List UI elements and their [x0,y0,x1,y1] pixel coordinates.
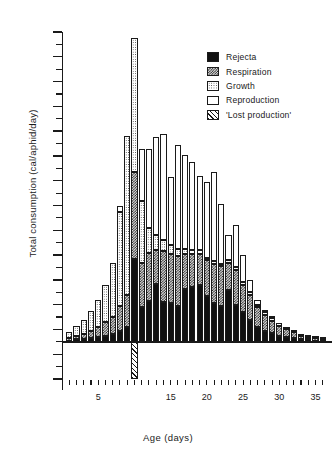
x-tick [148,380,149,385]
bar-segment-reproduction [189,162,195,250]
bar-segment-rejecta [240,312,246,342]
bar-segment-respiration [182,254,188,289]
bar-segment-reproduction [218,204,224,263]
bar-segment-respiration [269,321,275,333]
bar-segment-growth [110,263,116,318]
bar-segment-respiration [160,251,166,302]
x-tick [279,380,280,385]
figure: Total consumption (cal/aphid/day) Age (d… [0,0,336,462]
x-tick [119,380,120,385]
legend-item: Respiration [207,64,291,78]
bar-segment-respiration [81,334,87,339]
y-tick-major [53,378,62,379]
x-tick [163,380,164,385]
x-tick [235,380,236,385]
bar-stack [211,172,217,342]
bar-stack [204,182,210,342]
x-tick [83,380,84,385]
bar-stack [225,235,231,342]
legend-label: Respiration [226,67,272,77]
bar-segment-reproduction [197,176,203,250]
bar-segment-growth [131,38,137,172]
bar-stack [73,326,79,342]
bar-segment-respiration [73,336,79,340]
x-tick-label: 25 [230,392,256,402]
bar-stack [320,338,326,342]
bar-segment-rejecta [102,336,108,342]
bar-segment-respiration [240,285,246,312]
bar-segment-growth [139,201,145,263]
bar-stack [197,176,203,342]
x-tick [127,380,128,385]
bar-segment-respiration [298,336,304,340]
bar-segment-respiration [110,317,116,334]
bar-segment-growth [254,305,260,307]
y-tick-major [53,130,62,131]
legend-item: Rejecta [207,50,291,64]
bar-segment-respiration [95,327,101,337]
x-tick [272,380,273,385]
x-tick [185,380,186,385]
bar-segment-growth [73,326,79,336]
bar-stack [175,145,181,342]
bar-stack [218,204,224,342]
x-tick [286,380,287,385]
bar-stack [189,162,195,342]
bar-segment-respiration [88,331,94,338]
legend-item: Reproduction [207,93,291,107]
legend-label: Rejecta [226,52,257,62]
bar-segment-rejecta [197,285,203,342]
bar-segment-rejecta [276,336,282,342]
bar-stack [247,280,253,342]
y-tick-major [53,354,62,355]
bar-segment-respiration [305,337,311,339]
bar-stack [110,263,116,342]
bar-segment-respiration [66,338,72,340]
bar-stack [269,317,275,342]
bar-stack [305,336,311,342]
y-tick-major [53,230,62,231]
x-tick [112,380,113,385]
bar-segment-growth [102,285,108,322]
bar-stack [153,137,159,341]
bar-segment-growth [240,282,246,284]
y-tick-major [53,180,62,181]
x-tick [243,380,244,385]
legend-swatch-white [207,96,219,106]
x-tick [105,380,106,385]
y-tick-major [53,254,62,255]
bar-segment-growth [168,245,174,254]
legend-swatch-checker-dark [207,67,219,77]
bar-segment-reproduction [269,316,275,318]
bar-segment-growth [283,327,289,329]
bar-segment-reproduction [160,134,166,241]
bar-segment-reproduction [204,182,210,258]
bar-segment-rejecta [204,296,210,342]
bar-segment-rejecta [117,331,123,342]
bar-segment-growth [320,337,326,339]
x-tick [69,380,70,385]
bar-segment-respiration [139,263,145,308]
y-tick-major [53,155,62,156]
bar-segment-respiration [247,295,253,320]
bar-stack [95,300,101,342]
x-tick [257,380,258,385]
bar-segment-reproduction [233,225,239,267]
y-tick-major [53,31,62,32]
bar-segment-respiration [211,264,217,304]
bar-stack [139,149,145,342]
bar-segment-growth [95,300,101,327]
y-axis-title: Total consumption (cal/aphid/day) [27,74,38,294]
bar-stack [283,327,289,342]
bar-segment-growth [88,311,94,331]
bar-segment-rejecta [269,333,275,342]
y-tick-major [53,205,62,206]
x-tick [250,380,251,385]
bar-stack [291,331,297,342]
x-tick-label: 35 [303,392,329,402]
bar-segment-rejecta [81,339,87,341]
bar-segment-rejecta [168,303,174,341]
bar-segment-respiration [102,322,108,336]
bar-segment-respiration [254,307,260,327]
bar-stack [312,337,318,342]
